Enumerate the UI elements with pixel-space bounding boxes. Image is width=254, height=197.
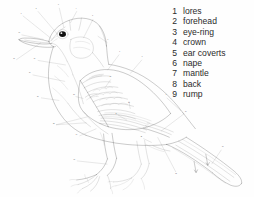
legend-label: nape [183,58,202,68]
callout-13: 13 [74,159,76,160]
diagram-page: 1 2 3 4 5 6 7 8 9 10 11 12 13 14 15 16 1… [0,0,254,197]
legend-item-8: 8 back [166,79,254,89]
tail-group [146,137,242,186]
callout-1: 1 [21,13,22,14]
callout-4: 4 [76,8,77,9]
callout-21: 21 [128,102,130,103]
callout-2: 2 [36,8,37,9]
legend-number: 4 [166,37,177,47]
legend-label: ear coverts [183,48,226,58]
legend-number: 2 [166,16,177,26]
legend-number: 6 [166,58,177,68]
legend-label: eye-ring [183,27,214,37]
callout-5: 5 [92,15,93,16]
legend-item-2: 2 forehead [166,16,254,26]
legend-label: forehead [183,16,217,26]
callout-7: 7 [119,51,120,52]
legend-label: crown [183,37,206,47]
legend-item-7: 7 mantle [166,68,254,78]
callout-12: 12 [175,173,177,174]
legend-number: 9 [166,89,177,99]
legend-list: 1 lores 2 forehead 3 eye-ring 4 crown 5 … [166,6,254,100]
legend-label: mantle [183,68,209,78]
callout-25: 25 [141,136,143,137]
callout-11: 11 [222,146,224,147]
legend-item-9: 9 rump [166,89,254,99]
callout-23: 23 [73,94,75,95]
legend-number: 3 [166,27,177,37]
callout-22: 22 [53,123,55,124]
eye-highlight [60,32,62,34]
legend-item-1: 1 lores [166,6,254,16]
callout-18: 18 [13,58,15,59]
eye [59,31,66,37]
legend-number: 5 [166,48,177,58]
callout-10: 10 [185,111,187,112]
legend-item-4: 4 crown [166,37,254,47]
legend-label: back [183,79,201,89]
callout-6: 6 [107,39,108,40]
legend-label: lores [183,6,202,16]
callout-14: 14 [76,134,78,135]
ear-coverts-patch [70,37,94,58]
legend-item-3: 3 eye-ring [166,27,254,37]
callout-3: 3 [58,4,59,5]
legend-number: 1 [166,6,177,16]
legs-group [70,133,149,194]
legend-label: rump [183,89,203,99]
callout-8: 8 [142,56,143,57]
wing-group [78,70,173,138]
legend-number: 7 [166,68,177,78]
legend-number: 8 [166,79,177,89]
callout-16: 16 [29,72,31,73]
callout-20: 20 [110,76,112,77]
callout-15: 15 [37,96,39,97]
legend-item-5: 5 ear coverts [166,48,254,58]
legend-item-6: 6 nape [166,58,254,68]
head-group [19,18,109,75]
callout-19: 19 [19,32,21,33]
underparts-group [53,66,108,134]
callout-17: 17 [34,58,36,59]
